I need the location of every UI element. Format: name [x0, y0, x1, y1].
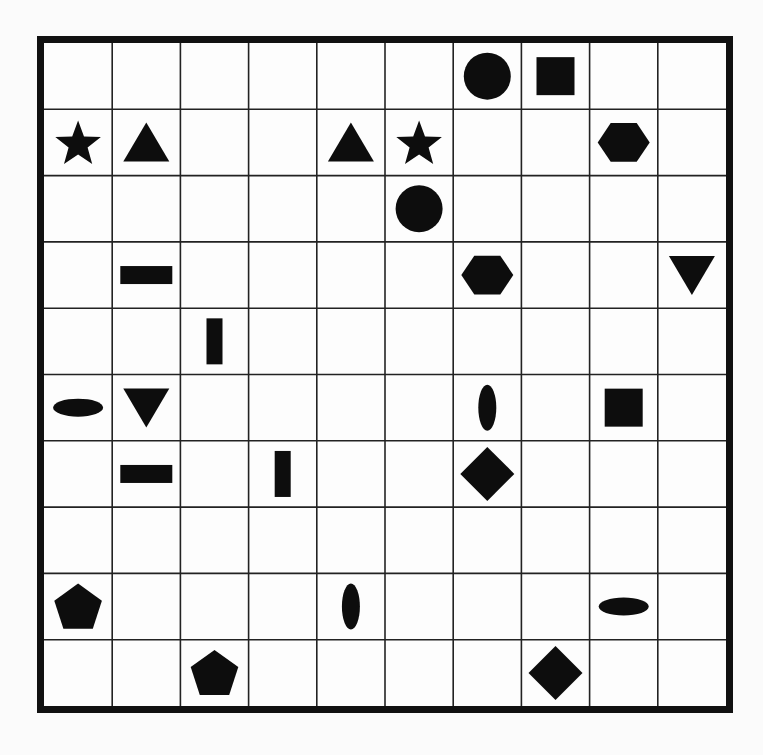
square-icon	[605, 389, 643, 427]
grid-cell-r6-c4[interactable]	[317, 441, 385, 507]
grid-cell-r2-c8[interactable]	[590, 176, 658, 242]
bar-horizontal-icon	[120, 465, 172, 483]
grid-cell-r0-c4[interactable]	[317, 43, 385, 109]
grid-cell-r5-c9[interactable]	[658, 375, 726, 441]
grid-cell-r4-c0[interactable]	[44, 308, 112, 374]
ellipse-horizontal-icon	[53, 399, 103, 417]
grid-cell-r7-c4[interactable]	[317, 507, 385, 573]
grid-cell-r5-c5[interactable]	[385, 375, 453, 441]
grid-cell-r0-c1[interactable]	[112, 43, 180, 109]
grid-cell-r0-c9[interactable]	[658, 43, 726, 109]
grid-cell-r4-c4[interactable]	[317, 308, 385, 374]
grid-cell-r6-c8[interactable]	[590, 441, 658, 507]
grid-cell-r8-c2[interactable]	[180, 573, 248, 639]
ellipse-horizontal-icon	[599, 598, 649, 616]
grid-cell-r9-c6[interactable]	[453, 640, 521, 706]
grid-cell-r7-c0[interactable]	[44, 507, 112, 573]
grid-cell-r8-c3[interactable]	[249, 573, 317, 639]
grid-cell-r7-c3[interactable]	[249, 507, 317, 573]
grid-cell-r4-c1[interactable]	[112, 308, 180, 374]
grid-cell-r9-c4[interactable]	[317, 640, 385, 706]
grid-cell-r0-c5[interactable]	[385, 43, 453, 109]
grid-canvas	[44, 43, 726, 706]
grid-cell-r6-c0[interactable]	[44, 441, 112, 507]
grid-cell-r3-c7[interactable]	[521, 242, 589, 308]
grid-cell-r9-c3[interactable]	[249, 640, 317, 706]
puzzle-grid	[37, 36, 733, 713]
bar-vertical-icon	[275, 451, 291, 497]
grid-cell-r9-c5[interactable]	[385, 640, 453, 706]
grid-cell-r5-c4[interactable]	[317, 375, 385, 441]
grid-cell-r0-c0[interactable]	[44, 43, 112, 109]
grid-cell-r2-c1[interactable]	[112, 176, 180, 242]
grid-cell-r8-c5[interactable]	[385, 573, 453, 639]
grid-cell-r6-c9[interactable]	[658, 441, 726, 507]
grid-cell-r7-c7[interactable]	[521, 507, 589, 573]
grid-cell-r9-c8[interactable]	[590, 640, 658, 706]
grid-cell-r1-c2[interactable]	[180, 109, 248, 175]
bar-horizontal-icon	[120, 266, 172, 284]
bar-vertical-icon	[207, 318, 223, 364]
grid-cell-r1-c9[interactable]	[658, 109, 726, 175]
grid-cell-r7-c1[interactable]	[112, 507, 180, 573]
grid-cell-r4-c8[interactable]	[590, 308, 658, 374]
grid-cell-r2-c3[interactable]	[249, 176, 317, 242]
grid-cell-r7-c6[interactable]	[453, 507, 521, 573]
grid-cell-r5-c3[interactable]	[249, 375, 317, 441]
grid-cell-r9-c0[interactable]	[44, 640, 112, 706]
grid-cell-r1-c6[interactable]	[453, 109, 521, 175]
ellipse-vertical-icon	[342, 584, 360, 630]
grid-cell-r8-c7[interactable]	[521, 573, 589, 639]
grid-cell-r2-c0[interactable]	[44, 176, 112, 242]
grid-cell-r3-c8[interactable]	[590, 242, 658, 308]
grid-cell-r4-c3[interactable]	[249, 308, 317, 374]
grid-cell-r5-c7[interactable]	[521, 375, 589, 441]
grid-cell-r8-c1[interactable]	[112, 573, 180, 639]
grid-cell-r2-c6[interactable]	[453, 176, 521, 242]
circle-icon	[396, 185, 443, 232]
grid-cell-r3-c3[interactable]	[249, 242, 317, 308]
grid-cell-r7-c2[interactable]	[180, 507, 248, 573]
circle-icon	[464, 53, 511, 100]
grid-cell-r8-c6[interactable]	[453, 573, 521, 639]
grid-cell-r6-c2[interactable]	[180, 441, 248, 507]
grid-cell-r0-c3[interactable]	[249, 43, 317, 109]
grid-cell-r1-c7[interactable]	[521, 109, 589, 175]
grid-cell-r0-c2[interactable]	[180, 43, 248, 109]
grid-cell-r0-c8[interactable]	[590, 43, 658, 109]
grid-cell-r3-c2[interactable]	[180, 242, 248, 308]
grid-cell-r7-c8[interactable]	[590, 507, 658, 573]
grid-cell-r4-c7[interactable]	[521, 308, 589, 374]
ellipse-vertical-icon	[478, 385, 496, 431]
grid-cell-r4-c5[interactable]	[385, 308, 453, 374]
square-icon	[537, 57, 575, 95]
grid-cell-r4-c9[interactable]	[658, 308, 726, 374]
grid-cell-r7-c5[interactable]	[385, 507, 453, 573]
grid-cell-r5-c2[interactable]	[180, 375, 248, 441]
grid-cell-r3-c5[interactable]	[385, 242, 453, 308]
grid-cell-r7-c9[interactable]	[658, 507, 726, 573]
grid-cell-r9-c1[interactable]	[112, 640, 180, 706]
grid-cell-r8-c9[interactable]	[658, 573, 726, 639]
grid-cell-r2-c2[interactable]	[180, 176, 248, 242]
grid-cell-r2-c4[interactable]	[317, 176, 385, 242]
grid-cell-r6-c7[interactable]	[521, 441, 589, 507]
grid-cell-r6-c5[interactable]	[385, 441, 453, 507]
grid-cell-r2-c9[interactable]	[658, 176, 726, 242]
grid-cell-r9-c9[interactable]	[658, 640, 726, 706]
grid-cell-r2-c7[interactable]	[521, 176, 589, 242]
grid-cell-r4-c6[interactable]	[453, 308, 521, 374]
grid-cell-r3-c0[interactable]	[44, 242, 112, 308]
grid-cell-r3-c4[interactable]	[317, 242, 385, 308]
grid-cell-r1-c3[interactable]	[249, 109, 317, 175]
